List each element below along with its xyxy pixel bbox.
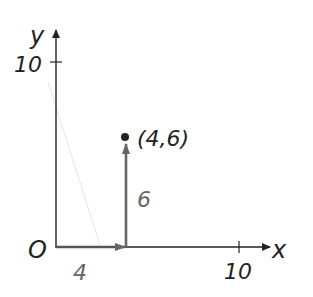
coordinate-diagram: y 10 O x 10 (4,6) 6 4 (0, 0, 313, 297)
point-label: (4,6) (137, 126, 189, 151)
x-axis-label: x (271, 236, 287, 264)
horizontal-component-label: 4 (73, 260, 87, 285)
vertical-component-label: 6 (137, 187, 151, 212)
point-marker (121, 133, 129, 141)
origin-label: O (28, 236, 47, 264)
y-axis-label: y (29, 22, 45, 50)
x-tick-label: 10 (224, 259, 252, 284)
y-tick-label: 10 (14, 52, 42, 77)
